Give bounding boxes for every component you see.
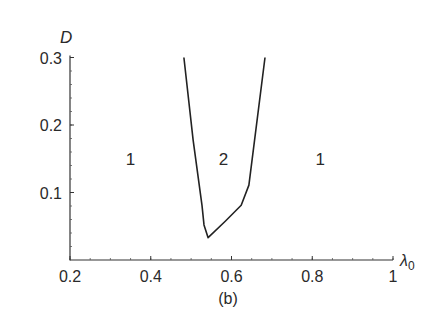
x-tick-label: 1	[389, 268, 398, 285]
x-tick-label: 0.4	[140, 268, 162, 285]
y-tick-label: 0.1	[40, 185, 62, 202]
phase-diagram-chart: 0.20.40.60.810.10.20.3 121 D λ0 (b)	[0, 0, 443, 336]
x-tick-label: 0.2	[59, 268, 81, 285]
y-tick-label: 0.3	[40, 50, 62, 67]
boundary-curve	[184, 58, 265, 238]
region-labels: 121	[126, 150, 325, 169]
y-axis-label: D	[60, 28, 72, 47]
x-tick-label: 0.6	[220, 268, 242, 285]
region-label: 1	[316, 150, 325, 169]
chart-svg: 0.20.40.60.810.10.20.3 121 D λ0 (b)	[0, 0, 443, 336]
x-axis-label: λ0	[399, 252, 415, 273]
figure-caption: (b)	[218, 290, 238, 307]
x-tick-label: 0.8	[301, 268, 323, 285]
y-tick-label: 0.2	[40, 117, 62, 134]
region-label: 1	[126, 150, 135, 169]
region-label: 2	[219, 150, 228, 169]
axes	[70, 56, 393, 261]
